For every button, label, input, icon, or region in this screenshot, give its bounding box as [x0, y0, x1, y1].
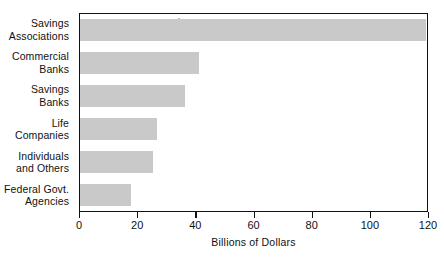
bar-row [80, 151, 427, 173]
bar [80, 85, 185, 107]
category-label: Life Companies [0, 117, 74, 142]
x-axis-tick-label: 60 [247, 219, 259, 231]
x-axis-tick-label: 40 [189, 219, 201, 231]
bar-row [80, 118, 427, 140]
x-axis-tick-label: 0 [76, 219, 82, 231]
x-axis-tick [195, 212, 196, 218]
bar-row [80, 85, 427, 107]
x-axis-title: Billions of Dollars [79, 236, 428, 248]
x-axis-tick [254, 212, 255, 218]
plot-area [79, 13, 428, 212]
bar-row [80, 184, 427, 206]
x-axis-tick-label: 20 [131, 219, 143, 231]
x-axis: 020406080100120 [79, 212, 428, 222]
category-label: Commercial Banks [0, 50, 74, 75]
category-label: Individuals and Others [0, 150, 74, 175]
category-label: Federal Govt. Agencies [0, 183, 74, 208]
bar [80, 118, 157, 140]
x-axis-tick-label: 120 [419, 219, 437, 231]
category-label: Savings Banks [0, 83, 74, 108]
category-axis-labels: Savings Associations Commercial Banks Sa… [0, 13, 74, 212]
bar [80, 184, 131, 206]
x-axis-tick-label: 100 [361, 219, 379, 231]
bars-container [80, 14, 427, 211]
x-axis-tick-label: 80 [306, 219, 318, 231]
bar [80, 19, 426, 41]
x-axis-tick [312, 212, 313, 218]
x-axis-tick [79, 212, 80, 218]
bar-row [80, 19, 427, 41]
bar [80, 151, 153, 173]
bar [80, 52, 199, 74]
category-label: Savings Associations [0, 17, 74, 42]
bar-chart: Savings Associations Commercial Banks Sa… [0, 0, 444, 262]
x-axis-tick [370, 212, 371, 218]
x-axis-tick [137, 212, 138, 218]
bar-row [80, 52, 427, 74]
x-axis-tick [428, 212, 429, 218]
